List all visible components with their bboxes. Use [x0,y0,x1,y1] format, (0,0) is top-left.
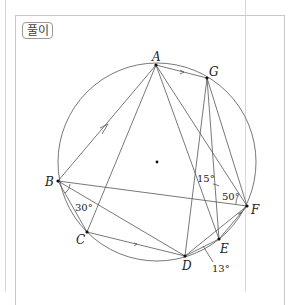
point-B: B [44,175,54,189]
angle-label-50: 50° [222,191,240,202]
point-E: E [219,242,229,256]
point-A: A [151,50,161,64]
point-F: F [250,203,260,217]
angle-label-13: 13° [212,263,230,274]
angle-label-15: 15° [197,173,215,184]
point-D: D [181,259,192,273]
point-C: C [76,233,85,247]
point-G: G [209,65,219,79]
angle-label-30: 30° [75,202,93,213]
